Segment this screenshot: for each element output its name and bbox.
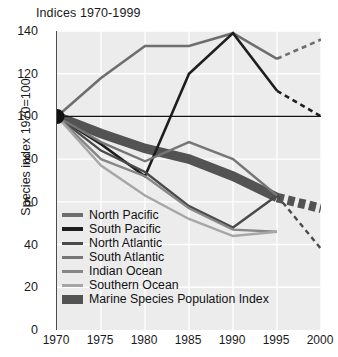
legend-swatch-icon xyxy=(62,270,83,273)
legend-item[interactable]: South Atlantic xyxy=(62,250,262,264)
legend-item-label: North Pacific xyxy=(89,209,159,221)
legend-item[interactable]: North Pacific xyxy=(62,208,262,222)
chart-legend: North PacificSouth PacificNorth Atlantic… xyxy=(62,208,262,307)
legend-item-label: Southern Ocean xyxy=(89,279,179,291)
series-line-marine-species-population-index xyxy=(57,116,277,197)
legend-swatch-icon xyxy=(62,295,83,305)
y-axis-tick-label: 80 xyxy=(8,153,38,166)
legend-item[interactable]: South Pacific xyxy=(62,222,262,236)
legend-item[interactable]: Southern Ocean xyxy=(62,278,262,292)
x-axis-tick-label: 1970 xyxy=(36,334,76,346)
legend-item-label: South Pacific xyxy=(89,223,161,235)
y-axis-tick-group: 140120100806040200 xyxy=(8,0,38,357)
chart-title: Indices 1970-1999 xyxy=(36,6,141,20)
legend-swatch-icon xyxy=(62,284,83,287)
legend-item-label: South Atlantic xyxy=(89,251,164,263)
legend-swatch-icon xyxy=(62,256,83,259)
y-axis-tick-label: 120 xyxy=(8,68,38,81)
legend-item[interactable]: Marine Species Population Index xyxy=(62,293,262,307)
x-axis-tick-group: 1970197519801985199019952000 xyxy=(0,334,333,354)
y-axis-tick-label: 20 xyxy=(8,281,38,294)
y-axis-tick-label: 40 xyxy=(8,239,38,252)
legend-item-label: Marine Species Population Index xyxy=(89,293,269,305)
y-axis-tick-label: 140 xyxy=(8,25,38,38)
legend-swatch-icon xyxy=(62,213,83,216)
x-axis-tick-label: 2000 xyxy=(300,334,338,346)
y-axis-tick-label: 60 xyxy=(8,196,38,209)
legend-item[interactable]: Indian Ocean xyxy=(62,264,262,278)
series-dashed-south-pacific xyxy=(277,91,321,117)
series-dashed-north-pacific xyxy=(277,40,321,59)
legend-swatch-icon xyxy=(62,227,83,230)
legend-item-label: North Atlantic xyxy=(89,237,162,249)
x-axis-tick-label: 1980 xyxy=(124,334,164,346)
legend-item-label: Indian Ocean xyxy=(89,265,162,277)
y-axis-tick-label: 100 xyxy=(8,110,38,123)
x-axis-tick-label: 1995 xyxy=(256,334,296,346)
x-axis-tick-label: 1990 xyxy=(212,334,252,346)
legend-swatch-icon xyxy=(62,242,83,245)
x-axis-tick-label: 1975 xyxy=(80,334,120,346)
x-axis-tick-label: 1985 xyxy=(168,334,208,346)
legend-item[interactable]: North Atlantic xyxy=(62,236,262,250)
